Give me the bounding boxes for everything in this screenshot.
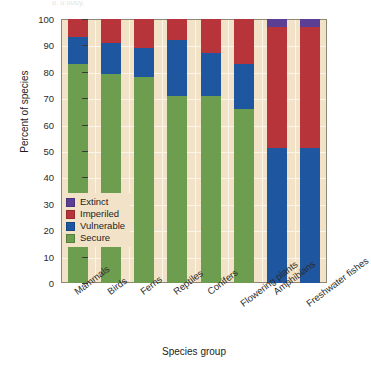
legend-swatch: [66, 234, 75, 243]
x-axis-tick-label: Reptiles: [171, 267, 205, 296]
x-axis-title: Species group: [61, 346, 327, 357]
legend-item: Imperiled: [66, 208, 125, 220]
x-axis-tick-label: Ferns: [138, 273, 164, 296]
legend-item: Secure: [66, 232, 125, 244]
x-axis-tick-label: Conifers: [205, 267, 240, 297]
legend-label: Vulnerable: [80, 221, 125, 231]
legend-label: Imperiled: [80, 209, 119, 219]
legend-swatch: [66, 210, 75, 219]
legend-swatch: [66, 198, 75, 207]
legend-item: Extinct: [66, 196, 125, 208]
x-axis-tick-label: Mammals: [72, 263, 112, 297]
chart-legend: ExtinctImperiledVulnerableSecure: [63, 193, 130, 247]
x-axis-tick-label: Birds: [105, 275, 129, 297]
legend-label: Extinct: [80, 197, 109, 207]
legend-label: Secure: [80, 233, 110, 243]
legend-item: Vulnerable: [66, 220, 125, 232]
legend-swatch: [66, 222, 75, 231]
